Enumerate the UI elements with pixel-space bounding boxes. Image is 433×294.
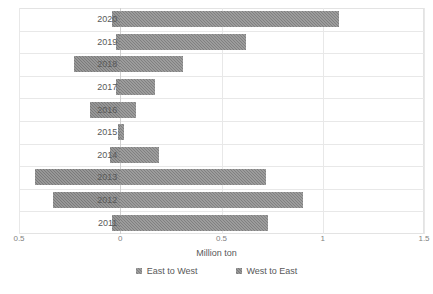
bar-row: 2016 (19, 98, 424, 121)
bar-segment (120, 79, 154, 95)
bar-segment (120, 56, 183, 72)
x-tick-label: 0 (118, 234, 122, 243)
bar-row: 2019 (19, 31, 424, 54)
chart-legend: East to WestWest to East (0, 266, 433, 276)
bar-segment (120, 11, 339, 27)
bar-row: 2013 (19, 166, 424, 189)
bar-row: 2011 (19, 211, 424, 234)
bar-row: 2015 (19, 121, 424, 144)
bar-row: 2014 (19, 144, 424, 167)
category-label: 2014 (97, 150, 117, 160)
bar-segment (120, 147, 158, 163)
bar-segment (118, 124, 120, 140)
x-tick-label: 0.5 (216, 234, 227, 243)
bar-row: 2020 (19, 8, 424, 31)
bar-row: 2018 (19, 53, 424, 76)
x-axis-title: Million ton (0, 248, 433, 258)
x-axis: 0.500.511.5 (19, 234, 424, 248)
category-label: 2018 (97, 59, 117, 69)
gridline-vertical (424, 8, 425, 234)
bar-segment (120, 169, 266, 185)
category-label: 2011 (98, 218, 117, 228)
category-label: 2013 (97, 172, 117, 182)
bar-row: 2017 (19, 76, 424, 99)
category-label: 2012 (97, 195, 117, 205)
category-label: 2020 (97, 14, 117, 24)
bar-chart: 2020201920182017201620152014201320122011… (0, 0, 433, 294)
x-tick-label: 1.5 (418, 234, 429, 243)
bar-segment (120, 102, 136, 118)
legend-label: West to East (247, 266, 298, 276)
legend-item[interactable]: West to East (236, 266, 298, 276)
legend-swatch-icon (136, 268, 142, 274)
x-tick-label: 0.5 (13, 234, 24, 243)
bar-segment (120, 192, 302, 208)
x-tick-label: 1 (321, 234, 325, 243)
bar-segment (120, 34, 246, 50)
bar-row: 2012 (19, 189, 424, 212)
legend-swatch-icon (236, 268, 242, 274)
bar-segment (120, 124, 124, 140)
legend-item[interactable]: East to West (136, 266, 198, 276)
category-label: 2019 (97, 37, 117, 47)
category-label: 2017 (97, 82, 117, 92)
plot-area: 2020201920182017201620152014201320122011 (19, 8, 424, 234)
category-label: 2016 (97, 105, 117, 115)
category-label: 2015 (97, 127, 117, 137)
bar-segment (120, 215, 268, 231)
legend-label: East to West (147, 266, 198, 276)
